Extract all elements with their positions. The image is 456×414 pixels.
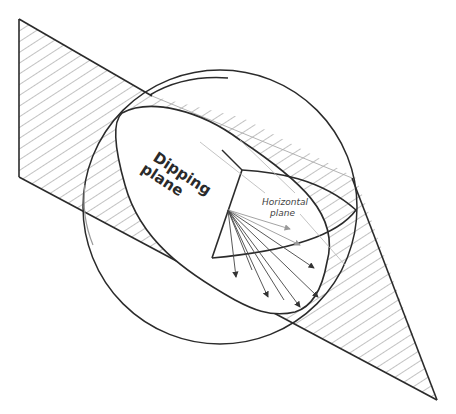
dipping-plane-ellipse [116,107,330,314]
dipping-plane-diagram: Dipping plane Horizontal plane [0,0,456,414]
horizontal-plane-label-2: plane [269,208,295,218]
horizontal-plane-label-1: Horizontal [262,197,308,207]
